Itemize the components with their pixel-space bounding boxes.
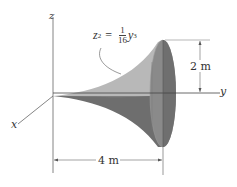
radius-dimension-label: 2 m: [190, 61, 211, 72]
horn-end-face-shade: [163, 40, 176, 147]
z-axis-label: z: [49, 11, 54, 21]
horn-upper-surface: [53, 40, 163, 96]
y-axis-label: y: [220, 86, 226, 97]
length-arrow-right: [158, 159, 162, 162]
equation-rhs-exp: 3: [133, 32, 137, 40]
equation-lhs-exp: 2: [98, 32, 102, 40]
equation-leader: [100, 48, 121, 74]
horn-lower-surface: [53, 96, 163, 147]
horn-diagram: z y x z2 = 1 16 y3 2 m 4 m: [0, 0, 237, 187]
x-axis: [18, 96, 53, 124]
fraction-denominator: 16: [118, 36, 127, 45]
length-dimension-label: 4 m: [98, 155, 119, 166]
radius-arrow-bottom: [199, 88, 202, 92]
length-arrow-left: [54, 159, 58, 162]
radius-arrow-top: [199, 41, 202, 45]
x-axis-label: x: [11, 119, 17, 130]
surface-equation: z2 = 1 16 y3: [93, 26, 137, 45]
equation-fraction: 1 16: [118, 26, 127, 45]
equation-equals: =: [105, 28, 112, 43]
